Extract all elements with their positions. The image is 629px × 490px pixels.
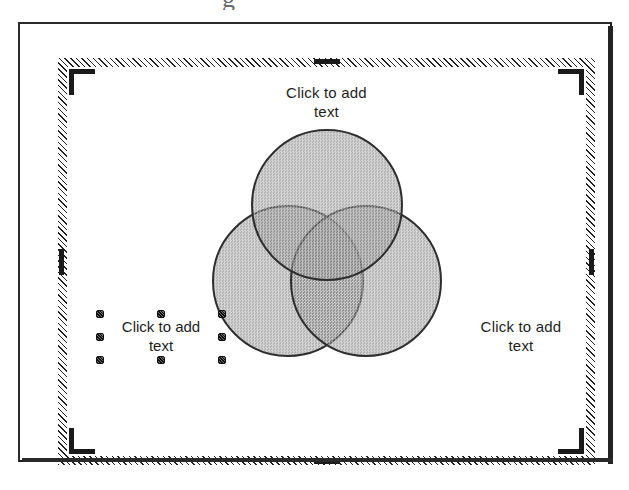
corner-marker-bottom-left: [69, 428, 95, 454]
venn-circle-top[interactable]: [251, 129, 403, 281]
window-shadow-bottom: [22, 458, 613, 462]
placeholder-text-left[interactable]: Click to add text: [105, 317, 217, 355]
corner-marker-top-left: [69, 69, 95, 95]
edge-tick-top[interactable]: [314, 59, 340, 64]
placeholder-text-right[interactable]: Click to add text: [462, 317, 580, 355]
selection-handle-middle-left[interactable]: [96, 333, 104, 341]
window-frame: Click to add text Click to add text Clic…: [18, 22, 612, 462]
scan-artifact-glyph: g: [222, 0, 248, 10]
edge-tick-right[interactable]: [589, 249, 594, 275]
corner-marker-top-right: [558, 69, 584, 95]
selection-handle-bottom-left[interactable]: [96, 356, 104, 364]
selection-handle-top-left[interactable]: [96, 310, 104, 318]
placeholder-text-top[interactable]: Click to add text: [215, 83, 439, 121]
selection-handle-bottom-center[interactable]: [157, 356, 165, 364]
selection-handle-middle-right[interactable]: [218, 333, 226, 341]
venn-diagram[interactable]: [212, 129, 442, 359]
window-shadow-right: [608, 26, 613, 464]
edge-tick-left[interactable]: [59, 249, 64, 275]
selection-handle-bottom-right[interactable]: [218, 356, 226, 364]
slide-canvas-selection-border[interactable]: Click to add text Click to add text Clic…: [58, 58, 595, 465]
slide-inner-surface[interactable]: Click to add text Click to add text Clic…: [67, 67, 586, 456]
placeholder-text-left-selected[interactable]: Click to add text: [105, 317, 217, 363]
selection-handle-top-center[interactable]: [157, 310, 165, 318]
corner-marker-bottom-right: [558, 428, 584, 454]
selection-handle-top-right[interactable]: [218, 310, 226, 318]
